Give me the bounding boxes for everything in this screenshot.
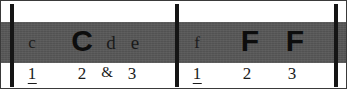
note-letter: c <box>28 34 36 51</box>
beat-count: 3 <box>288 65 297 82</box>
note-letter: e <box>131 33 139 52</box>
beat-count: 3 <box>128 65 137 82</box>
middle-barline <box>175 4 179 87</box>
note-letter: f <box>194 34 200 51</box>
beat-and-marker: & <box>101 65 113 80</box>
beat-count: 1 <box>28 65 37 84</box>
opening-barline <box>10 4 14 87</box>
beat-count: 1 <box>193 65 202 84</box>
closing-barline <box>334 4 338 87</box>
note-letter: F <box>286 26 304 56</box>
beat-count: 2 <box>243 65 252 82</box>
rhythm-notation-diagram: cCdefFF 12&3123 <box>0 0 347 89</box>
note-letter: d <box>106 33 116 52</box>
note-letter: F <box>241 26 259 56</box>
beat-count: 2 <box>78 65 87 82</box>
note-letter: C <box>71 26 93 56</box>
